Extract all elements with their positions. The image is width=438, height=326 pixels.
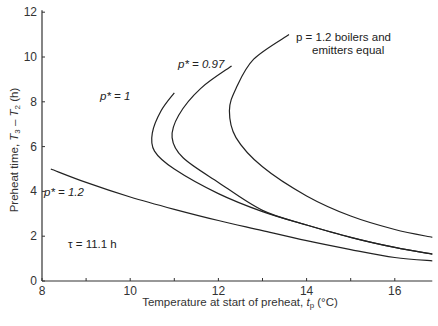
x-tick-label: 10 — [124, 284, 138, 298]
y-tick-label: 6 — [30, 140, 37, 154]
annotation-p-star-1: p* = 1 — [99, 90, 130, 102]
y-tick-label: 12 — [24, 5, 38, 19]
y-tick-label: 10 — [24, 50, 38, 64]
series-line-2 — [172, 66, 432, 254]
annotation-p-equal-line2: emitters equal — [312, 44, 384, 56]
curves — [51, 35, 433, 261]
series-line-3 — [229, 35, 432, 238]
annotation-p-equal-line1: p = 1.2 boilers and — [296, 31, 391, 43]
y-tick-label: 2 — [30, 229, 37, 243]
x-tick-label: 8 — [39, 284, 46, 298]
y-axis-title: Preheat time, T3 – T2 (h) — [8, 88, 22, 213]
line-chart: 810121416024681012 p* = 1.2 p* = 1 p* = … — [0, 0, 438, 326]
annotation-tau: τ = 11.1 h — [68, 238, 117, 250]
x-tick-label: 16 — [388, 284, 402, 298]
annotations: p* = 1.2 p* = 1 p* = 0.97 p = 1.2 boiler… — [43, 31, 391, 250]
annotation-p-star-0-97: p* = 0.97 — [177, 58, 225, 70]
series-line-1 — [151, 93, 432, 254]
x-axis-title: Temperature at start of preheat, tp (°C) — [142, 296, 338, 310]
chart-container: 810121416024681012 p* = 1.2 p* = 1 p* = … — [0, 0, 438, 326]
y-tick-label: 4 — [30, 184, 37, 198]
y-tick-label: 0 — [30, 274, 37, 288]
y-tick-label: 8 — [30, 95, 37, 109]
annotation-p-star-1-2: p* = 1.2 — [43, 186, 85, 198]
